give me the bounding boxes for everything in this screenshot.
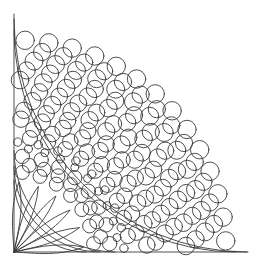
ring-circle (201, 162, 219, 180)
ring-circle (126, 151, 143, 168)
ring-circle (190, 141, 208, 159)
ring-circle (127, 70, 145, 88)
ring-circle (68, 61, 86, 79)
ring-circle (137, 168, 154, 185)
ring-circle (113, 136, 130, 153)
ring-circle (83, 201, 97, 215)
ring-circle (79, 88, 97, 106)
ring-circle (135, 130, 153, 148)
ring-circle (51, 169, 65, 183)
ring-circle (16, 102, 32, 118)
ring-circle (214, 208, 232, 226)
ring-circle (217, 232, 235, 250)
ring-circle (178, 184, 195, 201)
ring-circle (142, 123, 159, 140)
ring-circle (16, 31, 34, 49)
ring-circle (15, 149, 29, 163)
ring-circle (76, 54, 93, 71)
petal-5 (14, 186, 38, 252)
ring-circle (114, 152, 130, 168)
ring-circle (187, 231, 204, 248)
ring-circle (156, 225, 173, 242)
ring-circle (134, 144, 151, 161)
ring-circle (175, 134, 192, 151)
ring-circle (161, 169, 179, 187)
ring-circle (100, 99, 118, 117)
ring-circle (141, 107, 159, 125)
ring-circle (80, 123, 96, 139)
ring-circle (86, 80, 103, 97)
ring-circle (155, 123, 173, 141)
outer-boundary-arc (14, 19, 247, 252)
ring-circle (86, 47, 104, 65)
ring-circle (149, 149, 167, 167)
ring-circle (64, 71, 81, 88)
ring-circle (31, 84, 48, 101)
petal-2 (14, 228, 80, 252)
ring-circle (105, 116, 122, 133)
ring-circle (114, 73, 131, 90)
ring-circle (187, 180, 205, 198)
ring-circle (40, 34, 58, 52)
ring-circle (132, 86, 149, 103)
ring-circle (120, 129, 137, 146)
ring-circle (147, 234, 163, 250)
ring-circle (18, 62, 35, 79)
ring-circle (166, 218, 183, 235)
ring-circle (70, 95, 87, 112)
rosette-figure (0, 0, 261, 267)
ring-circle (127, 170, 143, 186)
ring-circle (157, 142, 174, 159)
ring-circle (120, 244, 128, 252)
ring-circle (178, 120, 196, 138)
ring-circle (154, 179, 171, 196)
ring-circle (118, 114, 136, 132)
ring-circle (186, 153, 203, 170)
ring-circle (96, 63, 113, 80)
ring-circle (24, 93, 41, 110)
ring-circle (195, 173, 212, 190)
ring-circle (64, 188, 78, 202)
ring-circle (107, 92, 124, 109)
ring-circle (14, 138, 22, 146)
ring-circle (163, 117, 180, 134)
ring-circle (125, 107, 142, 124)
ring-circle (98, 123, 115, 140)
drawing-canvas (0, 0, 261, 267)
ring-circle (168, 163, 185, 180)
ring-circle (120, 228, 135, 243)
arc-rings (14, 19, 247, 252)
ring-circle (107, 57, 125, 75)
ring-circle (102, 236, 116, 250)
ring-circle (88, 104, 105, 121)
ring-circle (125, 93, 143, 111)
ring-circle (145, 161, 162, 178)
ring-circle (81, 112, 98, 129)
ring-circle (98, 136, 114, 152)
ring-circle (22, 131, 37, 146)
